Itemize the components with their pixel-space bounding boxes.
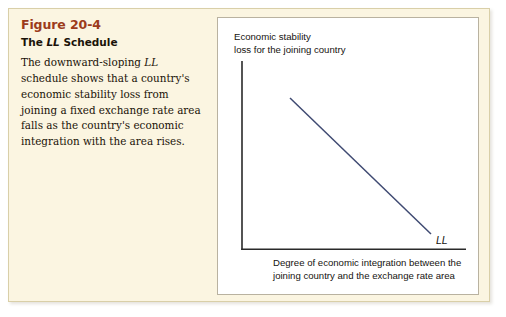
- figure-subtitle-prefix: The: [21, 36, 46, 48]
- caption-italic-ll: LL: [144, 56, 158, 68]
- x-axis-label-line2: joining country and the exchange rate ar…: [272, 270, 456, 281]
- ll-schedule-chart: Economic stability loss for the joining …: [218, 18, 480, 296]
- figure-caption-text: The downward-sloping LL schedule shows t…: [21, 55, 207, 150]
- figure-subtitle-suffix: Schedule: [60, 36, 118, 48]
- y-axis-label-line1: Economic stability: [234, 31, 311, 42]
- y-axis-label-line2: loss for the joining country: [234, 44, 346, 55]
- chart-card: Economic stability loss for the joining …: [217, 17, 479, 295]
- ll-curve-label: LL: [436, 234, 448, 246]
- figure-panel: Figure 20-4 The LL Schedule The downward…: [8, 8, 490, 302]
- figure-subtitle: The LL Schedule: [21, 36, 207, 49]
- caption-text-part1: The downward-sloping: [21, 56, 144, 68]
- ll-schedule-line: [290, 98, 431, 234]
- caption-text-part2: schedule shows that a country's economic…: [21, 72, 201, 147]
- caption-column: Figure 20-4 The LL Schedule The downward…: [21, 17, 207, 150]
- figure-screenshot: Figure 20-4 The LL Schedule The downward…: [0, 0, 506, 317]
- figure-subtitle-italic-ll: LL: [46, 36, 59, 48]
- figure-number: Figure 20-4: [21, 17, 207, 32]
- x-axis-label-line1: Degree of economic integration between t…: [273, 257, 461, 268]
